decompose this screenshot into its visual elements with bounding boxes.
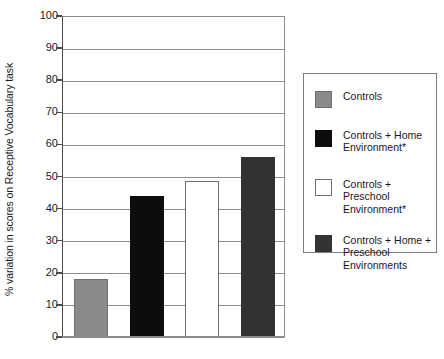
y-tick-label: 40 xyxy=(24,203,58,214)
y-tick-label: 10 xyxy=(24,299,58,310)
bar xyxy=(185,181,219,337)
y-tick-label: 20 xyxy=(24,267,58,278)
bar xyxy=(130,196,164,337)
legend-label: Controls xyxy=(343,90,382,102)
y-tick-label: 100 xyxy=(24,10,58,21)
legend-swatch-icon xyxy=(315,91,332,108)
y-tick-label: 80 xyxy=(24,74,58,85)
gridline xyxy=(63,81,284,82)
y-tick-label: 0 xyxy=(24,331,58,342)
x-axis-baseline xyxy=(62,336,285,338)
legend-label: Controls + Home Environment* xyxy=(343,129,422,154)
legend-label: Controls + Preschool Environment* xyxy=(343,178,406,215)
gridline xyxy=(63,145,284,146)
chart-figure: % variation in scores on Receptive Vocab… xyxy=(0,0,444,359)
legend-label: Controls + Home + Preschool Environments xyxy=(343,234,431,271)
legend-swatch-icon xyxy=(315,235,332,252)
legend-entry: Controls + Preschool Environment* xyxy=(315,178,406,215)
y-tick-label: 70 xyxy=(24,106,58,117)
gridline xyxy=(63,49,284,50)
plot-area xyxy=(62,16,285,337)
y-tick-label: 30 xyxy=(24,235,58,246)
legend-entry: Controls + Home Environment* xyxy=(315,129,422,154)
legend-swatch-icon xyxy=(315,130,332,147)
y-tick-label: 50 xyxy=(24,171,58,182)
bar xyxy=(74,279,108,337)
legend-entry: Controls xyxy=(315,90,382,108)
gridline xyxy=(63,113,284,114)
y-axis-title: % variation in scores on Receptive Vocab… xyxy=(0,0,18,359)
y-tick-label: 90 xyxy=(24,42,58,53)
legend-swatch-icon xyxy=(315,179,332,196)
legend: ControlsControls + Home Environment*Cont… xyxy=(303,73,437,253)
y-tick-label: 60 xyxy=(24,138,58,149)
bar xyxy=(241,157,275,337)
legend-entry: Controls + Home + Preschool Environments xyxy=(315,234,431,271)
